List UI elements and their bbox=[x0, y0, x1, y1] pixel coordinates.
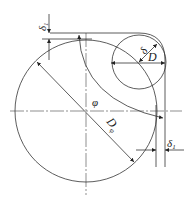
delta-right-label: δ1 bbox=[167, 137, 176, 151]
delta-top-label: δ1 bbox=[36, 22, 50, 31]
phi-label: φ bbox=[92, 96, 98, 108]
main-diameter-line bbox=[37, 62, 134, 162]
small-diameter-label: D bbox=[147, 50, 157, 64]
engineering-diagram: δ1 δ D φ Dφ δ1 bbox=[0, 0, 191, 199]
